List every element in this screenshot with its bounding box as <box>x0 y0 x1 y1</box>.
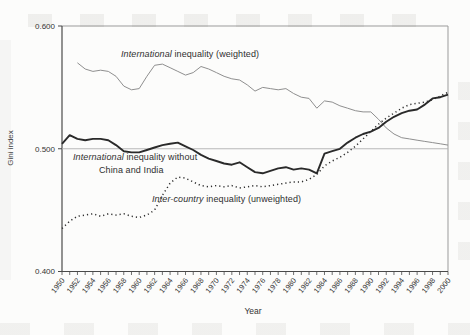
label-without-china-india-line1: International inequality without <box>73 152 197 163</box>
series-international-weighted <box>77 63 448 145</box>
x-tick-label: 1982 <box>296 276 313 295</box>
x-tick-label: 1966 <box>173 276 190 295</box>
label-rest-part: inequality without <box>124 152 197 162</box>
x-tick-label: 1970 <box>204 276 221 295</box>
x-tick-label: 1990 <box>358 276 375 295</box>
label-italic-part: International <box>73 152 124 162</box>
x-tick-label: 1954 <box>80 276 97 295</box>
x-tick-label: 1960 <box>126 276 143 295</box>
x-tick-label: 1974 <box>234 276 251 295</box>
x-tick-label: 1964 <box>157 276 174 295</box>
x-tick-label: 1980 <box>281 276 298 295</box>
label-rest-part: inequality (weighted) <box>172 49 259 59</box>
label-rest-part: inequality (unweighted) <box>204 194 301 204</box>
x-tick-label: 1984 <box>312 276 329 295</box>
label-inter-country-unweighted: Inter-country inequality (unweighted) <box>152 194 301 205</box>
y-tick-label: 0.400 <box>35 267 56 276</box>
label-italic-part: Inter-country <box>152 194 204 204</box>
x-tick-label: 1978 <box>265 276 282 295</box>
y-tick-label: 0.600 <box>35 22 56 31</box>
x-tick-label: 1986 <box>327 276 344 295</box>
label-international-weighted: International inequality (weighted) <box>121 49 259 60</box>
x-tick-label: 1976 <box>250 276 267 295</box>
x-tick-label: 2000 <box>435 276 452 295</box>
x-tick-label: 1998 <box>420 276 437 295</box>
x-axis-title: Year <box>244 306 261 316</box>
x-tick-label: 1952 <box>65 276 82 295</box>
x-tick-label: 1956 <box>96 276 113 295</box>
x-tick-label: 1994 <box>389 276 406 295</box>
y-tick-label: 0.500 <box>35 145 56 154</box>
label-italic-part: International <box>121 49 172 59</box>
x-tick-label: 1996 <box>404 276 421 295</box>
label-without-china-india-line2: China and India <box>99 165 164 176</box>
gini-chart-figure: 0.6000.5000.4001950195219541956195819601… <box>0 0 470 335</box>
x-tick-label: 1992 <box>373 276 390 295</box>
x-tick-label: 1972 <box>219 276 236 295</box>
x-tick-label: 1988 <box>343 276 360 295</box>
y-axis-title: Gini index <box>6 130 15 166</box>
x-tick-label: 1962 <box>142 276 159 295</box>
x-tick-label: 1958 <box>111 276 128 295</box>
x-tick-label: 1968 <box>188 276 205 295</box>
x-tick-label: 1950 <box>49 276 66 295</box>
